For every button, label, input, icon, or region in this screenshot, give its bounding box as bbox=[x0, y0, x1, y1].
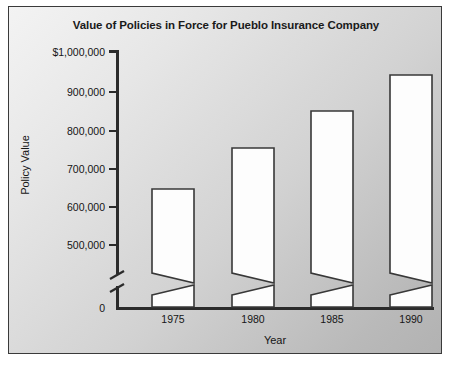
x-axis-label-1990: 1990 bbox=[399, 313, 422, 325]
x-axis-title: Year bbox=[116, 334, 434, 346]
plot-area: $1,000,000 900,000 800,000 700,000 600,0… bbox=[9, 7, 443, 355]
chart-figure: Value of Policies in Force for Pueblo In… bbox=[8, 6, 442, 354]
axis-break bbox=[9, 7, 443, 355]
x-axis-label-1975: 1975 bbox=[161, 313, 184, 325]
x-axis-label-1985: 1985 bbox=[320, 313, 343, 325]
axis-break-lower-mark bbox=[110, 284, 124, 292]
x-axis-label-1980: 1980 bbox=[241, 313, 264, 325]
axis-break-upper-mark bbox=[110, 271, 124, 279]
